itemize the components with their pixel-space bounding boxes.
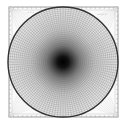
polar-grid-diagram: ~~~ ~~~~ <box>0 0 126 126</box>
label-top-right: ~~~~ <box>97 13 107 16</box>
label-top-left: ~~~ <box>27 11 35 14</box>
polar-grid-svg <box>0 0 126 126</box>
